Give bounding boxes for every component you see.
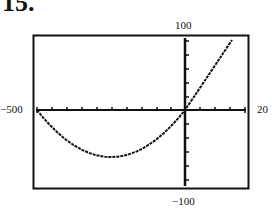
curve (37, 40, 232, 157)
xmin-label: −500 (0, 103, 23, 115)
ymax-label: 100 (175, 19, 192, 31)
calculator-graph (0, 0, 272, 212)
graph-frame (34, 36, 249, 189)
xmax-label: 20 (257, 103, 268, 115)
ymin-label: −100 (172, 195, 195, 207)
